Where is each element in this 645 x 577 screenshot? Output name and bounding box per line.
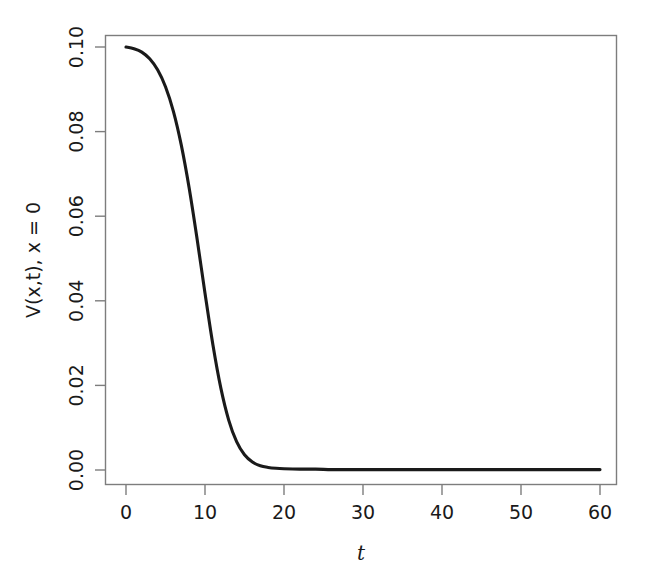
y-tick-label-2: 0.04 <box>65 280 87 322</box>
y-axis-ticks <box>95 47 105 470</box>
data-series-line <box>126 47 600 470</box>
y-axis-title: V(x,t), x = 0 <box>22 202 44 318</box>
line-chart: 0.00 0.02 0.04 0.06 0.08 0.10 V(x,t), x … <box>0 0 645 577</box>
x-axis-tick-labels: 0 10 20 30 40 50 60 <box>120 501 612 523</box>
x-axis-title: t <box>357 541 366 565</box>
x-axis-ticks <box>126 485 600 495</box>
figure-container: 0.00 0.02 0.04 0.06 0.08 0.10 V(x,t), x … <box>0 0 645 577</box>
x-tick-label-6: 60 <box>588 501 612 523</box>
y-tick-label-5: 0.10 <box>65 26 87 68</box>
x-tick-label-0: 0 <box>120 501 132 523</box>
y-tick-label-0: 0.00 <box>65 449 87 491</box>
y-axis-tick-labels: 0.00 0.02 0.04 0.06 0.08 0.10 <box>65 26 87 491</box>
y-tick-label-1: 0.02 <box>65 364 87 406</box>
x-tick-label-5: 50 <box>509 501 533 523</box>
x-tick-label-1: 10 <box>193 501 217 523</box>
plot-panel-border <box>106 36 617 485</box>
y-tick-label-3: 0.06 <box>65 195 87 237</box>
x-tick-label-4: 40 <box>430 501 454 523</box>
y-tick-label-4: 0.08 <box>65 110 87 152</box>
x-tick-label-3: 30 <box>351 501 375 523</box>
x-tick-label-2: 20 <box>272 501 296 523</box>
